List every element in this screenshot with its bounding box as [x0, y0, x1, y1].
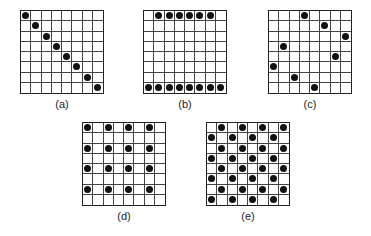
grid-cell — [175, 83, 185, 93]
grid-cell — [195, 42, 205, 52]
grid-cell — [228, 133, 238, 143]
grid-cell — [269, 133, 279, 143]
dot-icon — [218, 145, 225, 152]
dot-icon — [146, 145, 153, 152]
grid-cell — [31, 11, 41, 21]
grid-cell — [104, 174, 114, 184]
dot-icon — [249, 196, 256, 203]
grid-cell — [21, 32, 31, 42]
grid-cell — [144, 11, 154, 21]
dot-icon — [301, 12, 308, 19]
dot-icon — [208, 134, 215, 141]
grid-cell — [248, 144, 258, 154]
dot-icon — [196, 12, 203, 19]
dot-icon — [84, 145, 91, 152]
grid-cell — [114, 195, 124, 205]
grid-cell — [83, 144, 93, 154]
grid-cell — [320, 62, 330, 72]
grid-cell — [124, 154, 134, 164]
dot-icon — [105, 145, 112, 152]
grid-cell — [155, 164, 165, 174]
grid-cell — [258, 154, 268, 164]
grid-cell — [258, 174, 268, 184]
grid-cell — [145, 144, 155, 154]
grid-cell — [341, 62, 351, 72]
dot-icon — [217, 84, 224, 91]
grid-cell — [207, 133, 217, 143]
grid-cell — [175, 73, 185, 83]
grid-cell — [124, 185, 134, 195]
dot-icon — [259, 145, 266, 152]
grid-cell — [310, 52, 320, 62]
grid-cell — [279, 133, 289, 143]
grid-cell — [83, 21, 93, 31]
grid-cell — [104, 144, 114, 154]
grid-cell — [195, 21, 205, 31]
grid-panel-a — [20, 10, 104, 94]
dot-icon — [239, 186, 246, 193]
grid-cell — [155, 123, 165, 133]
grid-cell — [269, 174, 279, 184]
grid-cell — [31, 42, 41, 52]
dot-icon — [259, 186, 266, 193]
dot-icon — [22, 12, 29, 19]
grid-cell — [83, 32, 93, 42]
grid-cell — [320, 21, 330, 31]
grid-cell — [145, 195, 155, 205]
grid-cell — [269, 154, 279, 164]
grid-cell — [290, 11, 300, 21]
grid-cell — [124, 195, 134, 205]
grid-cell — [154, 83, 164, 93]
grid-cell — [62, 62, 72, 72]
dot-icon — [166, 12, 173, 19]
dot-icon — [249, 155, 256, 162]
grid-cell — [21, 73, 31, 83]
grid-cell — [290, 52, 300, 62]
grid-cell — [248, 154, 258, 164]
grid-cell — [155, 133, 165, 143]
grid-cell — [248, 195, 258, 205]
grid-cell — [93, 185, 103, 195]
dot-icon — [249, 175, 256, 182]
grid-cell — [310, 62, 320, 72]
grid-cell — [175, 62, 185, 72]
grid-cell — [228, 164, 238, 174]
grid-cell — [228, 144, 238, 154]
grid-cell — [269, 123, 279, 133]
grid-cell — [83, 52, 93, 62]
grid-cell — [175, 42, 185, 52]
grid-cell — [279, 11, 289, 21]
grid-cell — [331, 32, 341, 42]
grid-cell — [72, 52, 82, 62]
grid-cell — [207, 164, 217, 174]
grid-cell — [269, 73, 279, 83]
grid-cell — [154, 52, 164, 62]
grid-panel-c — [268, 10, 352, 94]
grid-cell — [320, 32, 330, 42]
dot-icon — [218, 124, 225, 131]
dot-icon — [155, 12, 162, 19]
dot-icon — [166, 84, 173, 91]
grid-cell — [185, 52, 195, 62]
grid-panel-d — [82, 122, 166, 206]
grid-cell — [124, 123, 134, 133]
grid-cell — [114, 164, 124, 174]
dot-icon — [84, 124, 91, 131]
grid-cell — [114, 123, 124, 133]
grid-cell — [238, 185, 248, 195]
grid-cell — [195, 62, 205, 72]
dot-icon — [105, 186, 112, 193]
grid-cell — [93, 21, 103, 31]
grid-cell — [206, 21, 216, 31]
grid-cell — [216, 83, 226, 93]
grid-cell — [279, 144, 289, 154]
grid-cell — [216, 62, 226, 72]
grid-cell — [207, 185, 217, 195]
dot-icon — [105, 165, 112, 172]
dot-icon — [196, 84, 203, 91]
grid-cell — [217, 185, 227, 195]
grid-cell — [21, 83, 31, 93]
grid-cell — [269, 42, 279, 52]
grid-cell — [217, 174, 227, 184]
grid-cell — [290, 62, 300, 72]
